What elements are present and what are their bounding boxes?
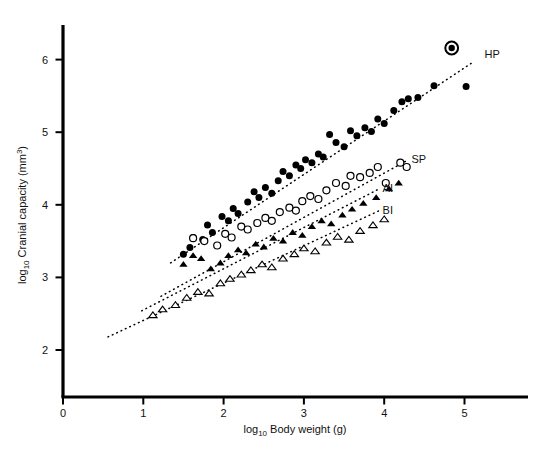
point-bi — [268, 264, 276, 270]
point-hp — [368, 128, 375, 135]
point-bi — [300, 245, 308, 251]
point-ai — [179, 261, 187, 267]
trend-line-hp — [171, 63, 473, 263]
point-sp — [357, 174, 364, 181]
point-ai — [197, 255, 205, 261]
tick-marks-layer — [56, 60, 465, 405]
point-bi — [322, 239, 330, 245]
point-hp — [398, 98, 405, 105]
point-hp — [320, 153, 327, 160]
point-hp — [225, 217, 232, 224]
point-bi — [216, 280, 224, 286]
y-tick-label-2: 2 — [42, 344, 48, 356]
point-hp — [255, 194, 262, 201]
y-tick-label-3: 3 — [42, 271, 48, 283]
point-hp — [374, 116, 381, 123]
point-sp — [268, 217, 275, 224]
x-tick-label-4: 4 — [381, 407, 387, 419]
chart-figure: 01234523456 HPSPAIBI log10 Body weight (… — [0, 0, 535, 450]
trend-lines-layer — [108, 63, 473, 337]
point-sp — [333, 180, 340, 187]
point-bi — [345, 236, 353, 242]
point-bi — [356, 228, 364, 234]
point-sp — [190, 235, 197, 242]
point-sp — [244, 226, 251, 233]
data-points-layer — [149, 42, 470, 318]
point-hp — [286, 172, 293, 179]
point-ai — [189, 252, 197, 258]
point-hp — [219, 213, 226, 220]
point-bi — [226, 276, 234, 282]
x-tick-label-2: 2 — [221, 407, 227, 419]
series-label-bi: BI — [383, 204, 393, 216]
point-ai — [317, 218, 325, 224]
point-sp — [323, 187, 330, 194]
point-sp — [347, 172, 354, 179]
point-sp — [403, 164, 410, 171]
point-sp — [214, 242, 221, 249]
point-bi — [158, 306, 166, 312]
point-ai — [234, 247, 242, 253]
point-hp — [463, 83, 470, 90]
x-tick-label-0: 0 — [60, 407, 66, 419]
trend-line-ai — [142, 189, 380, 311]
point-hp — [341, 143, 348, 150]
point-bi — [237, 271, 245, 277]
point-sp — [307, 193, 314, 200]
y-tick-label-6: 6 — [42, 54, 48, 66]
point-highlighted-specimen-core — [449, 45, 455, 51]
point-sp — [342, 182, 349, 189]
point-hp — [390, 107, 397, 114]
point-sp — [201, 238, 208, 245]
point-hp — [326, 131, 333, 138]
series-label-hp: HP — [485, 48, 500, 60]
point-ai — [298, 232, 306, 238]
point-ai — [224, 252, 232, 258]
point-hp — [280, 168, 287, 175]
point-hp — [235, 210, 242, 217]
point-sp — [276, 209, 283, 216]
point-sp — [299, 198, 306, 205]
point-sp — [222, 230, 229, 237]
point-hp — [275, 177, 282, 184]
x-axis-title: log10 Body weight (g) — [243, 423, 346, 438]
point-ai — [308, 223, 316, 229]
point-bi — [183, 295, 191, 301]
point-ai — [372, 194, 380, 200]
point-sp — [374, 164, 381, 171]
point-hp — [186, 244, 193, 251]
point-hp — [361, 124, 368, 131]
point-ai — [279, 238, 287, 244]
point-hp — [431, 82, 438, 89]
series-labels-layer: HPSPAIBI — [383, 48, 500, 215]
point-hp — [333, 139, 340, 146]
point-bi — [205, 290, 213, 296]
point-ai — [242, 249, 250, 255]
point-ai — [207, 265, 215, 271]
point-hp — [230, 205, 237, 212]
point-hp — [347, 127, 354, 134]
point-bi — [247, 267, 255, 273]
point-hp — [262, 184, 269, 191]
point-ai — [338, 212, 346, 218]
x-tick-label-5: 5 — [461, 407, 467, 419]
point-ai — [348, 206, 356, 212]
point-ai — [359, 200, 367, 206]
point-bi — [369, 222, 377, 228]
point-sp — [315, 196, 322, 203]
x-tick-label-3: 3 — [301, 407, 307, 419]
point-hp — [297, 165, 304, 172]
series-label-ai: AI — [383, 182, 393, 194]
point-hp — [302, 156, 309, 163]
point-sp — [254, 220, 261, 227]
point-hp — [405, 95, 412, 102]
point-hp — [204, 222, 211, 229]
point-hp — [251, 188, 258, 195]
point-ai — [252, 241, 260, 247]
point-sp — [292, 207, 299, 214]
point-ai — [216, 260, 224, 266]
scatter-plot-canvas: 01234523456 HPSPAIBI log10 Body weight (… — [0, 0, 535, 450]
point-hp — [414, 94, 421, 101]
point-bi — [311, 248, 319, 254]
y-tick-label-4: 4 — [42, 199, 48, 211]
